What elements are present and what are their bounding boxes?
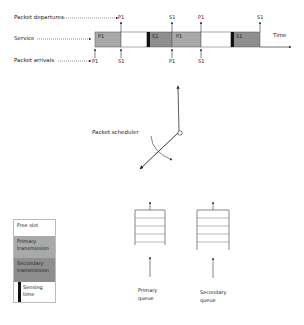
primary-queue — [135, 202, 165, 277]
primary-queue-label-line2: queue — [138, 296, 154, 301]
secondary-queue-label-line1: Secondary — [200, 290, 226, 295]
departure-arrows — [121, 22, 260, 32]
arrival-label: P1 — [92, 59, 98, 64]
legend-secondary-label-line1: Secondary — [17, 260, 52, 267]
legend-primary-transmission: Primary transmission — [14, 236, 55, 258]
scheduler-output-arrow — [178, 86, 179, 132]
arrival-label: S1 — [118, 59, 124, 64]
departure-label: S1 — [169, 15, 175, 20]
legend-primary-label-line2: transmission — [17, 245, 52, 252]
arrival-arrows — [95, 49, 201, 58]
departure-label: P1 — [118, 15, 124, 20]
service-label: Service — [14, 36, 34, 42]
secondary-queue-label-line2: queue — [200, 298, 216, 303]
legend: Free slot Primary transmission Secondary… — [13, 219, 56, 303]
sensing-time-mark — [231, 32, 234, 47]
packet-arrivals-label: Packet arrivals — [14, 58, 54, 64]
legend-free-slot: Free slot — [14, 220, 55, 236]
departure-label: S1 — [257, 15, 263, 20]
block-label: S1 — [152, 34, 158, 39]
block-secondary — [147, 32, 172, 47]
block-label: P1 — [176, 34, 182, 39]
arrival-label: P1 — [169, 59, 175, 64]
time-axis-label: Time — [273, 33, 286, 39]
departure-label: P1 — [198, 15, 204, 20]
block-label: P1 — [98, 34, 104, 39]
packet-scheduler-label: Packet scheduler — [92, 130, 139, 136]
legend-sensing-label-line2: time — [23, 291, 52, 298]
block-free — [201, 32, 231, 47]
legend-secondary-transmission: Secondary transmission — [14, 258, 55, 282]
arrival-label: S1 — [198, 59, 204, 64]
packet-scheduler-switch — [140, 86, 182, 169]
secondary-queue — [197, 202, 229, 278]
legend-sensing-time: Sensing time — [14, 282, 55, 302]
legend-free-slot-label: Free slot — [17, 222, 38, 228]
legend-secondary-label-line2: transmission — [17, 267, 52, 274]
primary-queue-label-line1: Primary — [138, 288, 157, 293]
scheduler-pivot — [178, 131, 182, 135]
legend-sensing-label-line1: Sensing — [23, 284, 52, 291]
sensing-time-mark — [147, 32, 150, 47]
legend-primary-label-line1: Primary — [17, 238, 52, 245]
sensing-swatch — [18, 282, 21, 302]
scheduler-arm — [140, 132, 179, 169]
packet-departures-label: Packet departures — [14, 15, 64, 21]
block-label: S1 — [236, 34, 242, 39]
block-free — [121, 32, 147, 47]
timeline-bar — [95, 32, 291, 47]
